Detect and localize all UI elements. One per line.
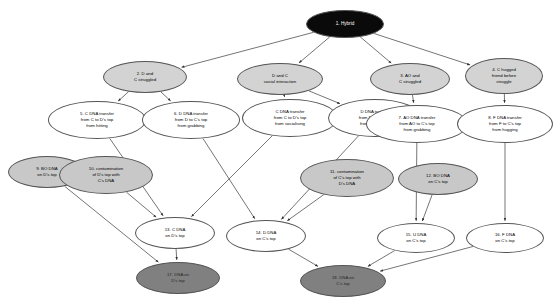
graph-node-label: 14. D DNA on C's top bbox=[253, 230, 280, 242]
graph-node[interactable]: 5. C DNA transfer from C to D's top from… bbox=[48, 101, 146, 139]
graph-node[interactable]: 3. AO and C struggled bbox=[370, 63, 450, 95]
graph-node-label: 2. D and C struggled bbox=[131, 71, 159, 83]
graph-node-label: D and C social interaction bbox=[261, 73, 299, 85]
graph-node-label: 10. contamination of D's top with C's DN… bbox=[86, 166, 126, 184]
graph-node-label: C DNA transfer from C to D's top from so… bbox=[271, 109, 309, 127]
graph-node-label: 12. BO DNA on C's top bbox=[423, 173, 453, 185]
graph-node[interactable]: D and C social interaction bbox=[237, 63, 323, 95]
graph-node-label: 7. AO DNA transfer from AO to C's top fr… bbox=[396, 115, 439, 133]
graph-node-label: 3. AO and C struggled bbox=[396, 73, 424, 85]
graph-node[interactable]: 13. C DNA on D's top bbox=[135, 217, 215, 249]
graph-node-label: 9. BO DNA on D's top bbox=[33, 166, 60, 178]
graph-node[interactable]: 8. F DNA transfer from F to C's top from… bbox=[457, 105, 553, 143]
graph-node-label: 11. contamination of C's top with D's DN… bbox=[327, 169, 367, 187]
graph-node[interactable]: 6. D DNA transfer from D to C's top from… bbox=[142, 101, 240, 139]
graph-node-label: 16. F DNA on C's top bbox=[492, 232, 518, 244]
graph-node-label: 17. DNA on D's top bbox=[164, 272, 192, 284]
graph-node[interactable]: 10. contamination of D's top with C's DN… bbox=[59, 156, 153, 194]
graph-node[interactable]: 17. DNA on D's top bbox=[136, 262, 220, 294]
graph-node-label: 18. DNA on C's top bbox=[329, 275, 357, 287]
graph-node[interactable]: 18. DNA on C's top bbox=[300, 265, 386, 297]
graph-node-label: 13. C DNA on D's top bbox=[162, 227, 189, 239]
graph-node-label: 5. C DNA transfer from C to D's top from… bbox=[77, 111, 117, 129]
graph-node[interactable]: C DNA transfer from C to D's top from so… bbox=[242, 99, 338, 137]
graph-node-label: 6. D DNA transfer from D to C's top from… bbox=[171, 111, 211, 129]
graph-node[interactable]: 11. contamination of C's top with D's DN… bbox=[300, 159, 394, 197]
graph-node-label: 8. F DNA transfer from F to C's top from… bbox=[485, 115, 525, 133]
graph-node-label: 1. Hybrid bbox=[333, 21, 358, 27]
graph-node[interactable]: 16. F DNA on C's top bbox=[466, 223, 544, 253]
graph-node[interactable]: 7. AO DNA transfer from AO to C's top fr… bbox=[366, 105, 468, 143]
graph-node[interactable]: 2. D and C struggled bbox=[103, 61, 187, 93]
graph-node-label: 4. C hugged friend before struggle bbox=[489, 67, 519, 85]
graph-node[interactable]: 4. C hugged friend before struggle bbox=[465, 58, 543, 94]
graph-node[interactable]: 1. Hybrid bbox=[306, 10, 384, 38]
graph-node-label: 15. U DNA on C's top bbox=[403, 232, 430, 244]
graph-node[interactable]: 12. BO DNA on C's top bbox=[398, 163, 478, 195]
graph-node[interactable]: 14. D DNA on C's top bbox=[226, 220, 306, 252]
graph-node[interactable]: 15. U DNA on C's top bbox=[377, 223, 455, 253]
